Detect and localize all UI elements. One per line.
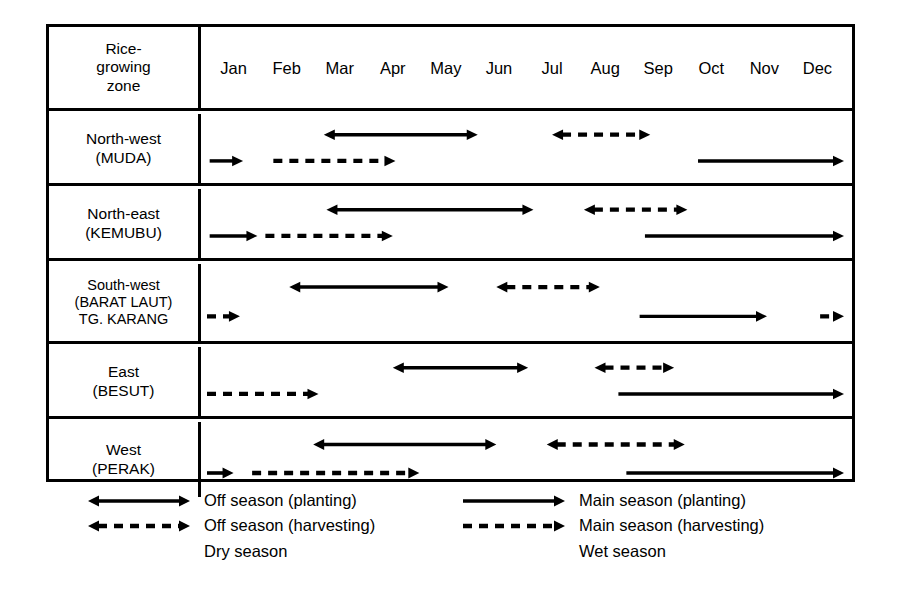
bar-off-season-harvesting — [552, 129, 650, 140]
legend-arrow-glyph — [461, 489, 579, 513]
arrowhead-right — [554, 495, 565, 506]
legend-label: Off season (harvesting) — [204, 517, 375, 534]
zone-cell-south-west: South-west(BARAT LAUT)TG. KARANG — [49, 264, 201, 341]
legend-glyph-solid-arrow-icon — [461, 489, 579, 513]
zone-cell-east: East(BESUT) — [49, 347, 201, 416]
legend-arrow-glyph — [86, 514, 204, 538]
bar-main-season-planting — [640, 311, 767, 322]
month-label-aug: Aug — [590, 58, 619, 77]
zone-name-line-0: North-west — [86, 130, 161, 148]
legend-label: Main season (harvesting) — [579, 517, 764, 534]
arrowhead-right — [676, 204, 687, 215]
legend-item-wet-0: Main season (planting) — [461, 488, 764, 513]
zone-header-line-0: Rice- — [105, 40, 141, 58]
bar-off-season-planting — [289, 282, 448, 293]
arrowhead-left — [595, 362, 606, 373]
legend-season-label: Dry season — [204, 543, 287, 560]
zone-cell-west: West(PERAK) — [49, 422, 201, 497]
legend-arrow-glyph — [86, 489, 204, 513]
arrowhead-right — [522, 204, 533, 215]
timeline-arrows — [201, 189, 852, 258]
bar-main-season-planting-early — [207, 468, 234, 479]
bar-main-season-planting — [626, 468, 844, 479]
timeline-arrows — [201, 264, 852, 341]
legend-column-dry: Off season (planting)Off season (harvest… — [86, 488, 375, 564]
legend-item-wet-1: Main season (harvesting) — [461, 513, 764, 538]
legend-glyph-dashed-arrow-icon — [86, 514, 204, 538]
arrowhead-right — [223, 468, 234, 479]
legend-season-dry: Dry season — [86, 538, 375, 564]
zone-name-line-0: East — [108, 363, 139, 381]
month-label-may: May — [430, 58, 461, 77]
bar-main-season-planting-early — [210, 156, 243, 167]
arrowhead-left — [552, 129, 563, 140]
legend-season-spacer — [86, 541, 204, 561]
month-header-track: JanFebMarAprMayJunJulAugSepOctNovDec — [201, 27, 852, 108]
bar-off-season-planting — [326, 204, 533, 215]
legend-glyph-dashed-arrow-icon — [461, 514, 579, 538]
legend-column-wet: Main season (planting)Main season (harve… — [461, 488, 764, 564]
month-label-jun: Jun — [486, 58, 513, 77]
table-row: East(BESUT) — [49, 347, 852, 419]
arrowhead-left — [326, 204, 337, 215]
bar-off-season-harvesting — [547, 439, 685, 450]
arrowhead-right — [179, 520, 190, 531]
timeline-track-north-west — [201, 114, 852, 183]
month-label-feb: Feb — [272, 58, 300, 77]
arrowhead-right — [438, 282, 449, 293]
arrowhead-right — [232, 156, 243, 167]
arrowhead-right — [517, 362, 528, 373]
month-label-sep: Sep — [644, 58, 673, 77]
month-label-mar: Mar — [325, 58, 353, 77]
arrowhead-right — [307, 389, 318, 400]
legend-season-label: Wet season — [579, 543, 666, 560]
table-row: North-east(KEMUBU) — [49, 189, 852, 261]
month-label-apr: Apr — [380, 58, 406, 77]
legend-glyph-solid-arrow-icon — [86, 489, 204, 513]
rice-calendar-figure: Rice-growingzoneJanFebMarAprMayJunJulAug… — [0, 0, 911, 598]
arrowhead-right — [408, 468, 419, 479]
arrowhead-left — [88, 520, 99, 531]
arrowhead-right — [833, 468, 844, 479]
bar-main-season-planting-early — [210, 231, 258, 242]
month-label-nov: Nov — [750, 58, 779, 77]
bar-off-season-planting — [313, 439, 496, 450]
table-row: South-west(BARAT LAUT)TG. KARANG — [49, 264, 852, 344]
bar-off-season-harvesting — [496, 282, 600, 293]
arrowhead-right — [485, 439, 496, 450]
arrowhead-right — [467, 129, 478, 140]
bar-main-season-planting — [618, 389, 844, 400]
zone-header-line-1: growing — [96, 58, 150, 76]
zone-name-line-0: South-west — [87, 277, 160, 294]
arrowhead-right — [663, 362, 674, 373]
table-row: North-west(MUDA) — [49, 114, 852, 186]
bar-off-season-planting — [324, 129, 478, 140]
zone-name-line-1: (MUDA) — [96, 149, 152, 167]
zone-name-line-1: (BARAT LAUT) — [75, 294, 173, 311]
legend-arrow-glyph — [461, 514, 579, 538]
arrowhead-left — [496, 282, 507, 293]
timeline-arrows — [201, 422, 852, 497]
bar-main-season-harvesting-late — [820, 311, 844, 322]
month-label-oct: Oct — [698, 58, 724, 77]
arrowhead-left — [289, 282, 300, 293]
legend-label: Off season (planting) — [204, 492, 357, 509]
arrowhead-left — [313, 439, 324, 450]
timeline-track-east — [201, 347, 852, 416]
bar-main-season-harvesting — [265, 231, 392, 242]
zone-cell-north-east: North-east(KEMUBU) — [49, 189, 201, 258]
bar-off-season-harvesting — [584, 204, 688, 215]
table-row: West(PERAK) — [49, 422, 852, 497]
arrowhead-right — [674, 439, 685, 450]
timeline-arrows — [201, 347, 852, 416]
zone-name-line-1: (BESUT) — [93, 382, 155, 400]
bar-main-season-harvesting — [207, 389, 318, 400]
arrowhead-left — [547, 439, 558, 450]
zone-name-line-1: (PERAK) — [92, 460, 155, 478]
bar-off-season-harvesting — [595, 362, 675, 373]
arrowhead-right — [382, 231, 393, 242]
arrowhead-right — [179, 495, 190, 506]
arrowhead-right — [833, 389, 844, 400]
bar-main-season-planting — [645, 231, 844, 242]
arrowhead-left — [88, 495, 99, 506]
